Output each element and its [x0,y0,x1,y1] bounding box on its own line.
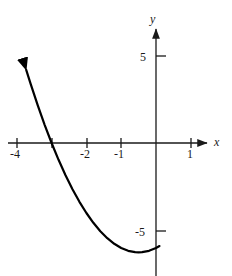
y-axis-tick-label: 5 [140,51,146,63]
graph-canvas [0,0,232,276]
x-axis-tick-label: 1 [187,148,193,160]
x-axis-tick-label: -2 [80,148,90,160]
x-axis-tick-label: -1 [114,148,124,160]
y-axis-label: y [150,13,155,25]
x-axis-label: x [214,136,219,148]
x-axis-tick-label: -4 [10,148,20,160]
graph-figure: x y -4-2-115-5 [0,0,232,276]
y-axis-tick-label: -5 [135,226,145,238]
